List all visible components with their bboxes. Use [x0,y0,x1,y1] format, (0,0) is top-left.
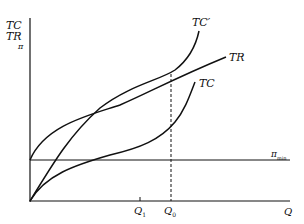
tc-prime-label: TC′ [192,17,210,28]
y-axis-label-tr: TR [6,31,22,42]
q0-label: Q0 [164,206,176,218]
tr-label: TR [229,52,245,63]
x-axis-label: Q [284,207,292,217]
tr-curve [30,57,226,160]
y-axis-label-pi: π [18,43,23,51]
tc-label: TC [199,78,215,89]
profit-diagram [0,0,304,224]
q1-label: Q1 [134,206,146,218]
pi-min-label: πmin [271,150,286,161]
